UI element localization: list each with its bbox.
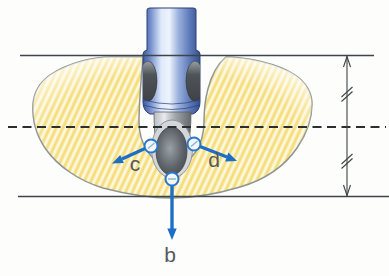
marker-circle-bottom-icon	[166, 173, 179, 186]
suction-port-right-icon	[186, 61, 204, 101]
diagram-canvas: c d b	[0, 0, 389, 276]
mixing-nozzle-flow-diagram: c d b	[0, 0, 389, 276]
label-c: c	[130, 152, 141, 175]
label-d: d	[208, 148, 220, 171]
label-b: b	[164, 243, 176, 266]
marker-circle-right-icon	[188, 138, 201, 151]
marker-circle-left-icon	[145, 140, 158, 153]
nozzle-bore	[156, 127, 187, 175]
